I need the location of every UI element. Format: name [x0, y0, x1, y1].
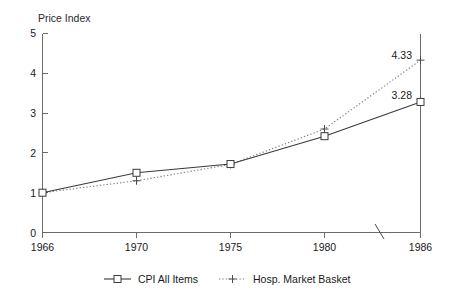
y-axis-title: Price Index — [38, 12, 91, 24]
chart-figure: Price Index 5 4 3 2 1 0 — [0, 0, 456, 299]
x-tick-label-1980: 1980 — [313, 241, 337, 253]
legend-entry-hosp-market-basket[interactable]: Hosp. Market Basket — [219, 273, 351, 285]
square-marker-icon — [321, 133, 328, 140]
series-hosp-market-basket — [39, 56, 425, 197]
square-marker-icon — [114, 276, 121, 283]
x-axis-break-mark — [375, 224, 384, 239]
y-axis-tick-labels: 5 4 3 2 1 0 — [30, 27, 36, 239]
legend-label-cpi-all-items: CPI All Items — [138, 273, 198, 285]
y-tick-label-0: 0 — [30, 227, 36, 239]
x-tick-label-1986: 1986 — [409, 241, 433, 253]
y-tick-label-1: 1 — [30, 187, 36, 199]
plus-marker-icon — [133, 177, 141, 185]
x-axis-ticks — [43, 233, 421, 238]
series-cpi-all-items — [39, 98, 424, 196]
data-label-cpi-1986: 3.28 — [392, 89, 413, 101]
chart-legend: CPI All Items Hosp. Market Basket — [104, 273, 351, 285]
plus-marker-icon — [417, 56, 425, 64]
x-tick-label-1975: 1975 — [219, 241, 243, 253]
plot-frame — [43, 34, 421, 233]
legend-entry-cpi-all-items[interactable]: CPI All Items — [104, 273, 198, 285]
square-marker-icon — [39, 189, 46, 196]
y-tick-label-4: 4 — [30, 67, 36, 79]
square-marker-icon — [133, 169, 140, 176]
x-tick-label-1966: 1966 — [31, 241, 55, 253]
y-tick-label-3: 3 — [30, 107, 36, 119]
y-axis-ticks — [43, 34, 48, 233]
y-tick-label-5: 5 — [30, 27, 36, 39]
legend-label-hosp-market-basket: Hosp. Market Basket — [253, 273, 351, 285]
plus-marker-icon — [229, 275, 237, 283]
square-marker-icon — [417, 98, 424, 105]
price-index-line-chart: Price Index 5 4 3 2 1 0 — [0, 0, 456, 299]
x-tick-label-1970: 1970 — [125, 241, 149, 253]
square-marker-icon — [227, 161, 234, 168]
endpoint-data-labels: 4.33 3.28 — [392, 49, 413, 101]
y-tick-label-2: 2 — [30, 147, 36, 159]
data-label-hosp-1986: 4.33 — [392, 49, 413, 61]
x-axis-tick-labels: 1966 1970 1975 1980 1986 — [31, 241, 433, 253]
plus-marker-icon — [321, 125, 329, 133]
